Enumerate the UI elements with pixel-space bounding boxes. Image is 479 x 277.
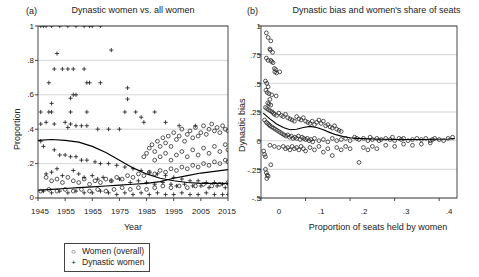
legend-label-dynastic-women: Dynastic women: [82, 257, 144, 268]
legend-item-dynastic-women: + Dynastic women: [69, 257, 144, 268]
legend-label-women-overall: Women (overall): [82, 246, 144, 257]
circle-marker-icon: ○: [69, 246, 78, 257]
panel-a-plot: [0, 0, 239, 277]
panel-a: (a) Dynastic women vs. all women Proport…: [0, 0, 239, 277]
plus-marker-icon: +: [69, 257, 78, 268]
legend-box: ○ Women (overall) + Dynastic women: [64, 243, 150, 272]
figure-container: (a) Dynastic women vs. all women Proport…: [0, 0, 479, 277]
legend-item-women-overall: ○ Women (overall): [69, 246, 144, 257]
panel-b-plot: [239, 0, 479, 277]
panel-b: (b) Dynastic bias and women's share of s…: [239, 0, 479, 277]
